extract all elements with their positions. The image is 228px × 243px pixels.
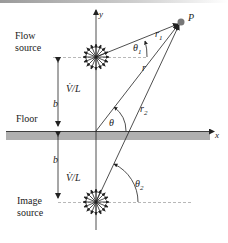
theta1-label: θ1 — [133, 42, 141, 58]
r1-label: r1 — [155, 28, 162, 44]
theta-arc — [114, 107, 126, 131]
point-p-label: P — [188, 12, 194, 23]
image-source-icon — [83, 189, 109, 215]
flow-source-label-line1: Flow — [15, 30, 36, 41]
theta1-arc — [145, 41, 147, 57]
flow-source-label-line2: source — [15, 42, 41, 53]
flow-source-icon — [83, 44, 109, 70]
floor-bar — [6, 131, 210, 140]
b-lower-label: b — [53, 154, 58, 165]
image-source-label-line1: Image — [17, 195, 42, 206]
y-axis-label: y — [99, 9, 103, 20]
r-label: r — [142, 62, 146, 73]
r2-label: r2 — [140, 103, 147, 119]
floor-label: Floor — [16, 113, 38, 124]
strength-lower-label: V̇/L — [66, 172, 80, 183]
b-upper-label: b — [53, 98, 58, 109]
strength-upper-label: V̇/L — [66, 83, 80, 94]
x-axis-label: x — [215, 130, 219, 141]
theta2-label: θ2 — [135, 178, 143, 194]
image-source-label-line2: source — [17, 207, 43, 218]
point-p — [178, 19, 185, 26]
theta-label: θ — [109, 117, 114, 128]
